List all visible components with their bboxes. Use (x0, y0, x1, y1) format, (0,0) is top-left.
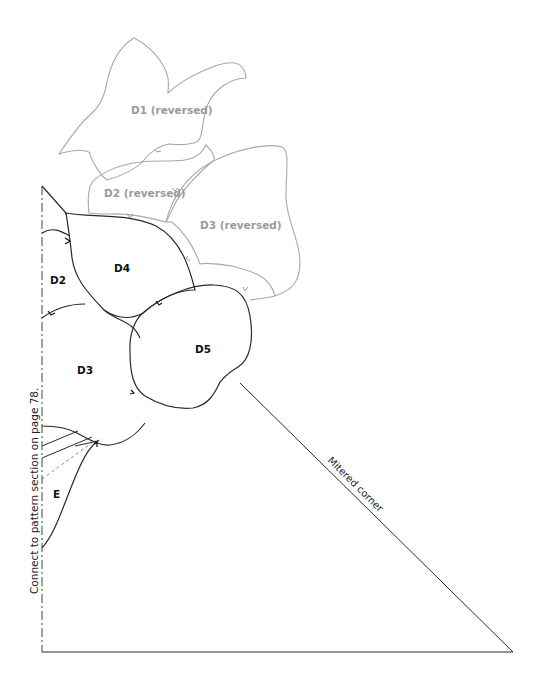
e-piece-outline (42, 440, 99, 548)
arrow-icon (186, 256, 190, 261)
dotted-seam (42, 440, 96, 479)
main-pieces (42, 186, 252, 548)
d2-reversed-outline (88, 145, 214, 222)
reversed-pieces (59, 38, 300, 296)
d2-outline (42, 230, 70, 236)
label-d5: D5 (195, 343, 211, 355)
connect-note: Connect to pattern section on page 78. (28, 388, 40, 594)
label-d3-reversed: D3 (reversed) (200, 219, 282, 231)
arrow-icon (243, 287, 248, 291)
label-d3: D3 (77, 364, 93, 376)
label-d2-reversed: D2 (reversed) (104, 187, 186, 199)
mitered-corner-line (240, 383, 513, 652)
label-d2: D2 (50, 274, 66, 286)
arrow-icon (155, 149, 161, 152)
arrow-icon (130, 390, 134, 394)
label-d4: D4 (114, 262, 130, 274)
d3-outline (42, 310, 145, 445)
mitered-corner-label: Mitered corner (326, 455, 386, 515)
d5-grey-link (250, 296, 275, 300)
label-d1-reversed: D1 (reversed) (131, 104, 213, 116)
top-left-wedge-outline (42, 186, 66, 215)
d4-outline (66, 213, 195, 317)
applique-pattern-diagram: D1 (reversed) D2 (reversed) D3 (reversed… (0, 0, 533, 686)
frame (42, 186, 513, 652)
stripe-lines (42, 431, 98, 458)
d5-outline (130, 285, 252, 408)
label-e: E (53, 488, 60, 500)
